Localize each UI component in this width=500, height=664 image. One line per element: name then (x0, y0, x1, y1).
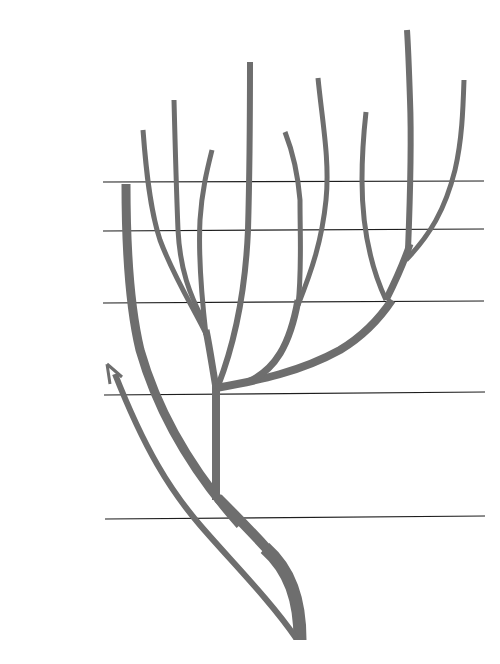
branch-cebidae (285, 132, 301, 305)
branch-pongidae (407, 30, 411, 250)
branch-prosimii-base (206, 330, 216, 388)
boundary-oligocene-eocene (104, 392, 485, 395)
boundary-miocene-oligocene (103, 301, 484, 303)
branch-ancestor-root (265, 548, 300, 640)
branch-tarsiidae (218, 62, 250, 386)
branches (115, 30, 464, 640)
branch-lorisidae (199, 150, 212, 335)
phylogenetic-tree-diagram (0, 0, 500, 664)
branch-anthropoidea-base (216, 300, 392, 388)
branch-insectivores (115, 374, 296, 638)
branch-hominidae (406, 80, 464, 260)
boundary-pleistocene-pliocene (103, 181, 484, 182)
boundary-eocene-paleocene (105, 516, 485, 519)
branch-hominoid-stem (386, 244, 410, 300)
branch-cercopithecidae (362, 112, 386, 300)
branch-tupaiidae (126, 184, 240, 525)
tree-graphic (0, 0, 500, 664)
